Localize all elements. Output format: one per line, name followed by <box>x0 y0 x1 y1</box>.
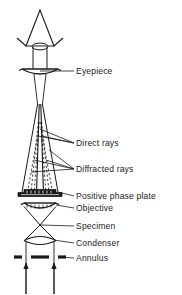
label-annulus: Annulus <box>76 253 108 263</box>
leader-direct-3 <box>40 129 74 143</box>
direct-ray-core <box>37 104 44 192</box>
eyepiece-lens <box>19 69 61 74</box>
upper-ray-bundle <box>34 74 46 104</box>
phase-contrast-microscope-diagram: Eyepiece Direct rays Diffracted rays Pos… <box>0 0 182 295</box>
diagram-canvas: Eyepiece Direct rays Diffracted rays Pos… <box>0 0 182 295</box>
objective-to-specimen-cone <box>24 207 56 226</box>
label-direct-rays: Direct rays <box>76 138 119 148</box>
condenser-lens <box>24 237 56 245</box>
leader-specimen <box>41 225 74 226</box>
illumination-arrows <box>23 262 56 294</box>
condenser-tube-walls <box>26 241 54 294</box>
label-specimen: Specimen <box>76 221 115 231</box>
leader-direct-2 <box>42 136 74 143</box>
label-objective: Objective <box>76 203 113 213</box>
label-diffracted-rays: Diffracted rays <box>76 164 134 174</box>
leader-diffracted-2 <box>46 160 74 169</box>
objective-lens <box>21 203 59 209</box>
positive-phase-plate <box>18 190 62 197</box>
label-group: Eyepiece Direct rays Diffracted rays Pos… <box>76 66 156 263</box>
label-eyepiece: Eyepiece <box>76 66 113 76</box>
label-positive-phase-plate: Positive phase plate <box>76 191 156 201</box>
observer-eye-cone <box>17 10 63 50</box>
leader-objective <box>56 205 74 208</box>
objective-ray-cone <box>22 104 58 192</box>
leader-condenser <box>54 240 74 243</box>
label-condenser: Condenser <box>76 238 119 248</box>
